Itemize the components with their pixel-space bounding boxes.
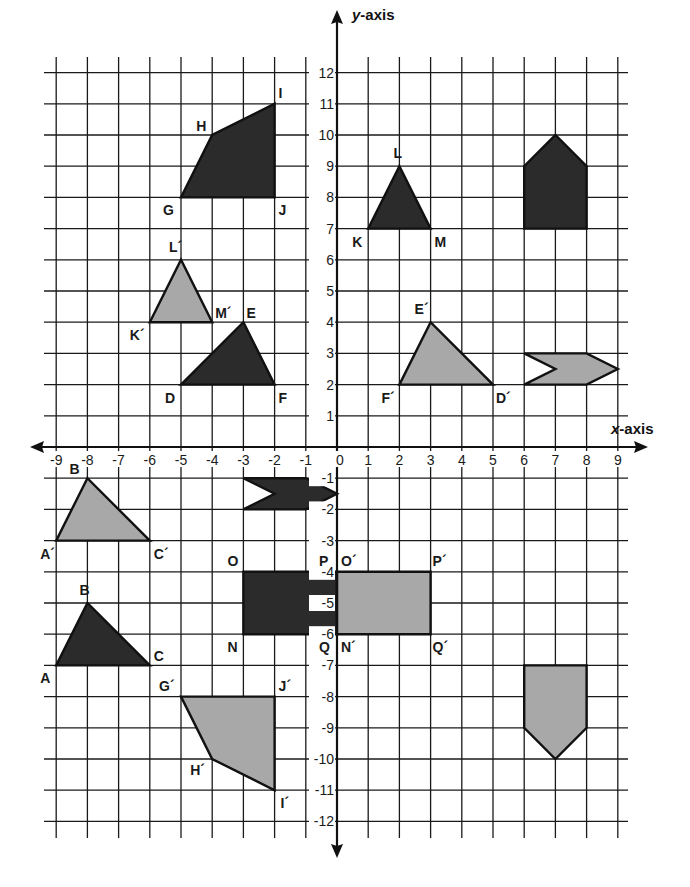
y-tick-label: 5 xyxy=(326,283,334,299)
vertex-label: N xyxy=(227,639,237,655)
vertex-label: M´ xyxy=(215,305,232,321)
x-axis-right-arrow-icon xyxy=(634,441,648,453)
vertex-label: K xyxy=(352,234,362,250)
y-tick-label: -9 xyxy=(322,720,335,736)
vertex-label: A´ xyxy=(40,546,55,562)
y-tick-label: 8 xyxy=(326,189,334,205)
vertex-label: H xyxy=(196,118,206,134)
rectangle-NOPQ-prime xyxy=(337,572,431,634)
x-tick-label: 1 xyxy=(364,452,372,468)
vertex-label: N´ xyxy=(341,639,356,655)
vertex-label: P xyxy=(319,553,328,569)
y-tick-label: 12 xyxy=(318,65,334,81)
vertex-label: B xyxy=(79,582,89,598)
arrow-q1 xyxy=(524,353,618,384)
x-tick-label: 0 xyxy=(336,452,344,468)
x-tick-label: -2 xyxy=(268,452,281,468)
x-axis-title: x-axis xyxy=(610,420,654,437)
vertex-label: G xyxy=(163,202,174,218)
vertex-label: F xyxy=(279,390,288,406)
x-tick-label: -7 xyxy=(112,452,125,468)
vertex-label: C´ xyxy=(154,546,169,562)
y-axis-title: y-axis xyxy=(351,6,395,23)
pentagon-q4 xyxy=(524,665,586,759)
y-tick-label: -3 xyxy=(322,533,335,549)
x-tick-label: -6 xyxy=(144,452,157,468)
vertex-label: H´ xyxy=(190,762,205,778)
y-tick-label: -5 xyxy=(322,595,335,611)
x-tick-label: -4 xyxy=(206,452,219,468)
vertex-label: E´ xyxy=(415,301,429,317)
y-tick-label: 2 xyxy=(326,377,334,393)
coordinate-plane: y-axis x-axis -9-8-7-6-5-4-3-2-101234567… xyxy=(0,0,690,887)
y-tick-label: 10 xyxy=(318,127,334,143)
vertex-label: O xyxy=(227,553,238,569)
x-tick-label: -3 xyxy=(237,452,250,468)
x-tick-label: -9 xyxy=(50,452,63,468)
y-tick-label: -12 xyxy=(314,813,334,829)
vertex-label: L xyxy=(393,145,402,161)
x-tick-label: 7 xyxy=(552,452,560,468)
vertex-label: G´ xyxy=(159,678,175,694)
vertex-label: J´ xyxy=(279,678,292,694)
vertex-label: E xyxy=(246,305,255,321)
y-tick-label: -1 xyxy=(322,470,335,486)
vertex-label: J xyxy=(279,202,287,218)
vertex-label: I xyxy=(279,85,283,101)
vertex-label: P´ xyxy=(433,553,447,569)
y-axis-title-rest: -axis xyxy=(360,6,394,23)
x-axis-left-arrow-icon xyxy=(30,441,44,453)
y-tick-label: 9 xyxy=(326,158,334,174)
vertex-label: I´ xyxy=(281,795,290,811)
x-tick-label: 9 xyxy=(614,452,622,468)
vertex-label: O´ xyxy=(341,553,357,569)
vertex-label: Q´ xyxy=(433,639,449,655)
vertex-label: M xyxy=(435,234,447,250)
y-tick-label: -2 xyxy=(322,501,335,517)
vertex-label: F´ xyxy=(381,390,395,406)
y-tick-label: 6 xyxy=(326,252,334,268)
vertex-label: A xyxy=(40,670,50,686)
quadrilateral-GHIJ xyxy=(181,104,275,198)
y-tick-label: -8 xyxy=(322,689,335,705)
vertex-label: C xyxy=(154,648,164,664)
y-tick-label: 11 xyxy=(319,96,334,112)
y-axis-up-arrow-icon xyxy=(331,10,343,24)
y-tick-label: -11 xyxy=(315,782,334,798)
y-axis-down-arrow-icon xyxy=(331,844,343,858)
vertex-label: B xyxy=(69,461,79,477)
x-tick-label: 8 xyxy=(583,452,591,468)
x-tick-label: 5 xyxy=(489,452,497,468)
y-tick-label: 1 xyxy=(326,408,334,424)
vertex-label: D xyxy=(165,390,175,406)
x-tick-label: -1 xyxy=(300,452,313,468)
x-axis-title-rest: -axis xyxy=(619,420,653,437)
pentagon-q1 xyxy=(524,135,586,229)
x-tick-label: 3 xyxy=(427,452,435,468)
x-tick-label: -5 xyxy=(175,452,188,468)
x-tick-label: 2 xyxy=(396,452,404,468)
x-tick-label: -8 xyxy=(81,452,94,468)
x-tick-label: 4 xyxy=(458,452,466,468)
y-tick-label: -7 xyxy=(322,657,335,673)
y-tick-label: 7 xyxy=(326,221,334,237)
vertex-label: L´ xyxy=(169,239,183,255)
y-tick-label: 3 xyxy=(326,345,334,361)
vertex-label: D´ xyxy=(496,390,511,406)
y-tick-label: -10 xyxy=(314,751,334,767)
y-tick-label: 4 xyxy=(326,314,334,330)
vertex-label: K´ xyxy=(130,327,145,343)
x-tick-label: 6 xyxy=(520,452,528,468)
vertex-label: Q xyxy=(319,639,330,655)
